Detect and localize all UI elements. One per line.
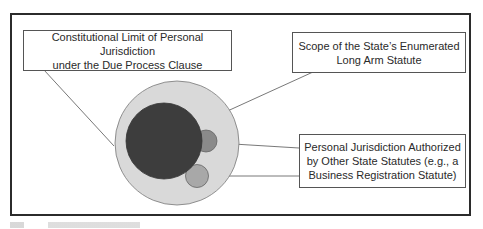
label-line: Business Registration Statute)	[300, 168, 465, 182]
label-due-process: Constitutional Limit of Personal Jurisdi…	[23, 30, 232, 71]
label-line: Constitutional Limit of Personal Jurisdi…	[24, 30, 231, 58]
label-line: under the Due Process Clause	[24, 58, 231, 72]
figure-caption-truncated	[10, 222, 140, 228]
label-long-arm: Scope of the State’s Enumerated Long Arm…	[292, 32, 466, 73]
long-arm-circle	[126, 103, 202, 179]
label-line: by Other State Statutes (e.g., a	[300, 154, 465, 168]
label-line: Personal Jurisdiction Authorized	[300, 140, 465, 154]
leader-line-due-process	[44, 70, 114, 146]
label-line: Long Arm Statute	[293, 53, 465, 67]
label-line: Scope of the State’s Enumerated	[293, 39, 465, 53]
label-other-statutes: Personal Jurisdiction Authorized by Othe…	[299, 134, 466, 188]
